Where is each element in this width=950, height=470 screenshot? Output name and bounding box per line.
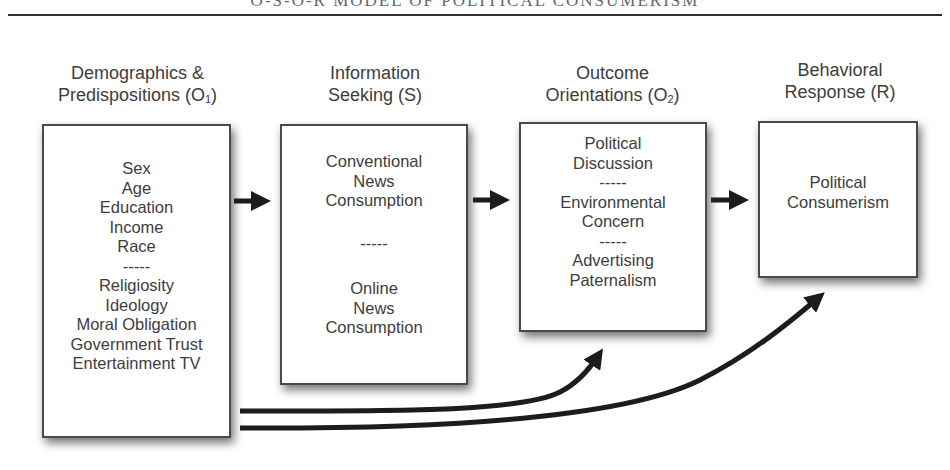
o2-separator: -----: [599, 173, 626, 193]
s-separator: -----: [360, 234, 387, 254]
box-behavioral-response: Political Consumerism: [758, 121, 918, 278]
o1-item: Age: [122, 179, 151, 199]
header-s-line2: Seeking (S): [285, 84, 465, 106]
header-o2-line2: Orientations (O2): [515, 84, 710, 110]
header-r-line1: Behavioral: [755, 59, 925, 81]
o1-item: Race: [117, 237, 156, 257]
header-r-line2: Response (R): [755, 81, 925, 103]
s-item: News: [353, 172, 394, 192]
header-o1: Demographics & Predispositions (O1): [30, 62, 245, 110]
s-item: Online: [350, 279, 398, 299]
o1-item: Religiosity: [99, 276, 174, 296]
s-item: Consumption: [325, 318, 422, 338]
box-outcome-orientations: Political Discussion ----- Environmental…: [519, 122, 707, 332]
header-r: Behavioral Response (R): [755, 59, 925, 103]
o2-item: Advertising: [572, 251, 654, 271]
o2-item: Concern: [582, 212, 644, 232]
r-item: Political: [810, 173, 867, 193]
o2-separator: -----: [599, 232, 626, 252]
o1-item: Sex: [122, 159, 150, 179]
o1-item: Entertainment TV: [72, 354, 200, 374]
s-item: Conventional: [326, 152, 422, 172]
o1-item: Government Trust: [70, 335, 202, 355]
header-o2: Outcome Orientations (O2): [515, 62, 710, 110]
box-information-seeking: Conventional News Consumption ----- Onli…: [280, 124, 468, 385]
o1-item: Moral Obligation: [76, 315, 196, 335]
figure-title: O-S-O-R MODEL OF POLITICAL CONSUMERISM: [0, 0, 950, 11]
header-s-line1: Information: [285, 62, 465, 84]
s-item: Consumption: [325, 191, 422, 211]
r-item: Consumerism: [787, 193, 889, 213]
o2-item: Environmental: [560, 193, 665, 213]
s-item: News: [353, 299, 394, 319]
o1-item: Income: [109, 218, 163, 238]
header-o2-line1: Outcome: [515, 62, 710, 84]
o1-item: Ideology: [105, 296, 167, 316]
header-o1-line1: Demographics &: [30, 62, 245, 84]
header-o1-line2: Predispositions (O1): [30, 84, 245, 110]
o1-item: Education: [100, 198, 173, 218]
o2-item: Discussion: [573, 154, 653, 174]
box-demographics-predispositions: Sex Age Education Income Race ----- Reli…: [42, 124, 231, 438]
header-s: Information Seeking (S): [285, 62, 465, 106]
o2-item: Political: [585, 134, 642, 154]
title-rule: [8, 14, 942, 16]
o1-separator: -----: [123, 257, 150, 277]
o2-item: Paternalism: [569, 271, 656, 291]
